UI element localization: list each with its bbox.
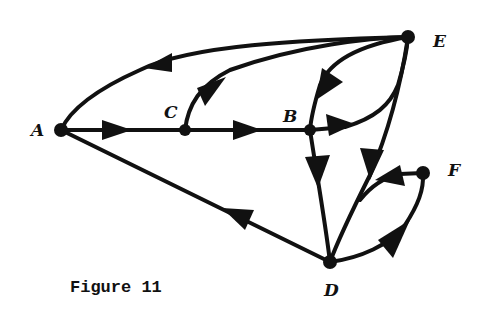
edge-B-D (310, 130, 330, 262)
arrowhead-D-A (222, 208, 254, 230)
node-label-D: D (324, 282, 339, 299)
node-C (179, 124, 191, 136)
directed-graph (0, 0, 490, 311)
node-F (416, 166, 430, 180)
arrowhead-D-F (378, 220, 410, 258)
arrowhead-E-D (360, 148, 384, 180)
arrowhead-C-B (233, 120, 262, 140)
node-A (54, 123, 68, 137)
edge-D-A (61, 130, 330, 262)
node-label-E: E (433, 33, 446, 50)
node-B (304, 124, 316, 136)
node-label-F: F (448, 162, 460, 179)
node-label-A: A (31, 122, 44, 139)
node-label-C: C (164, 104, 178, 121)
arrowhead-B-D (305, 155, 330, 188)
figure-caption: Figure 11 (70, 279, 162, 296)
arrowhead-E-A (144, 53, 172, 72)
node-D (323, 255, 337, 269)
arrowhead-A-C (102, 120, 132, 140)
node-label-B: B (283, 108, 297, 125)
arrowhead-B-E (326, 114, 355, 136)
node-E (401, 30, 415, 44)
